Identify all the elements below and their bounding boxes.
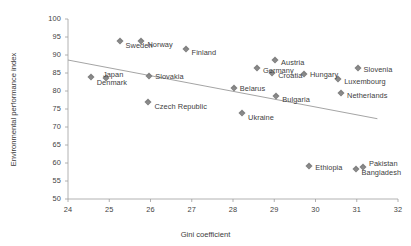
- data-point-label: Finland: [192, 48, 217, 57]
- x-tick-label: 28: [218, 205, 248, 214]
- x-axis-title: Gini coefficient: [0, 230, 411, 239]
- y-tick-label: 85: [28, 68, 61, 77]
- data-point-label: Netherlands: [347, 91, 387, 100]
- y-tick-label: 75: [28, 104, 61, 113]
- data-point-label: Denmark: [97, 78, 127, 87]
- y-axis-title: Environmental performance index: [9, 45, 18, 175]
- y-tick-label: 80: [28, 86, 61, 95]
- data-point-label: Slovenia: [364, 65, 393, 74]
- y-tick-label: 95: [28, 32, 61, 41]
- data-point-label: Hungary: [310, 70, 338, 79]
- x-tick-label: 24: [53, 205, 83, 214]
- x-tick-label: 31: [342, 205, 372, 214]
- axis-lines: [68, 19, 398, 199]
- tick-marks: [65, 19, 398, 202]
- y-tick-label: 50: [28, 194, 61, 203]
- y-tick-label: 90: [28, 50, 61, 59]
- x-tick-label: 32: [383, 205, 411, 214]
- data-point-label: Ukraine: [248, 113, 274, 122]
- y-tick-label: 100: [28, 14, 61, 23]
- data-point-label: Japan: [103, 70, 123, 79]
- data-point-label: Belarus: [240, 84, 265, 93]
- x-tick-label: 30: [301, 205, 331, 214]
- data-point-label: Bangladesh: [362, 168, 402, 177]
- data-point-label: Austria: [281, 58, 304, 67]
- data-point-label: Czech Republic: [154, 102, 206, 111]
- y-tick-label: 60: [28, 158, 61, 167]
- data-point-label: Croatia: [278, 71, 302, 80]
- y-tick-label: 65: [28, 140, 61, 149]
- data-point-label: Ethiopia: [315, 163, 342, 172]
- y-tick-label: 55: [28, 176, 61, 185]
- data-point-label: Bulgaria: [282, 95, 310, 104]
- data-point-label: Pakistan: [369, 159, 398, 168]
- y-tick-label: 70: [28, 122, 61, 131]
- x-tick-label: 27: [177, 205, 207, 214]
- data-point-label: Norway: [147, 40, 172, 49]
- x-tick-label: 29: [259, 205, 289, 214]
- data-point-label: Slovakia: [155, 72, 183, 81]
- scatter-chart: 50556065707580859095100 2425262728293031…: [0, 0, 411, 246]
- data-point-label: Luxembourg: [344, 77, 386, 86]
- x-tick-label: 26: [136, 205, 166, 214]
- x-tick-label: 25: [94, 205, 124, 214]
